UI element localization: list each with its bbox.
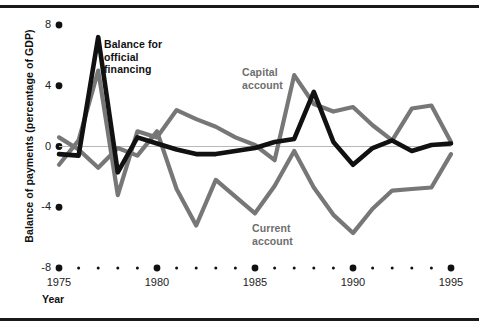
y-axis-dot (56, 82, 63, 89)
y-axis-tick-label: 8 (29, 18, 51, 30)
x-axis-dot-major (448, 265, 455, 272)
annotation-capital-account: Capital account (242, 66, 283, 91)
annotation-balance-official-financing: Balance for official financing (104, 38, 162, 76)
x-axis-tick-label: 1980 (137, 276, 177, 288)
x-axis-dot-minor (391, 267, 394, 270)
x-axis-dot-minor (77, 267, 80, 270)
x-axis-dot-minor (332, 267, 335, 270)
x-axis-dot-minor (214, 267, 217, 270)
annotation-line-2: account (242, 79, 283, 91)
x-axis-dot-minor (136, 267, 139, 270)
x-axis-dot-minor (175, 267, 178, 270)
y-axis-tick-label: 0 (29, 140, 51, 152)
x-axis-tick-label: 1990 (333, 276, 373, 288)
x-axis-dot-minor (273, 267, 276, 270)
y-axis-dot (56, 22, 63, 29)
x-axis-title: Year (42, 293, 64, 305)
annotation-current-account: Current account (252, 222, 293, 247)
annotation-line-3: financing (104, 63, 152, 75)
x-axis-dot-minor (97, 267, 100, 270)
x-axis-dot-minor (430, 267, 433, 270)
x-axis-tick-label: 1975 (39, 276, 79, 288)
y-axis-dot (56, 265, 63, 272)
annotation-line-2: account (252, 235, 293, 247)
y-axis-tick-label: 4 (29, 79, 51, 91)
x-axis-dot-major (350, 265, 357, 272)
annotation-line-1: Balance for (104, 38, 162, 50)
x-axis-dot-minor (312, 267, 315, 270)
x-axis-dot-major (154, 265, 161, 272)
x-axis-tick-label: 1985 (235, 276, 275, 288)
annotation-line-1: Current (252, 222, 291, 234)
x-axis-dot-minor (293, 267, 296, 270)
annotation-line-1: Capital (242, 66, 278, 78)
annotation-line-2: official (104, 51, 139, 63)
x-axis-dot-minor (371, 267, 374, 270)
x-axis-dot-minor (234, 267, 237, 270)
x-axis-dot-minor (195, 267, 198, 270)
y-axis-dot (56, 204, 63, 211)
x-axis-dot-minor (410, 267, 413, 270)
chart-figure: Balance of payments (percentage of GDP) … (0, 0, 479, 325)
x-axis-tick-label: 1995 (431, 276, 471, 288)
x-axis-dot-major (252, 265, 259, 272)
y-axis-tick-label: -4 (29, 200, 51, 212)
y-axis-tick-label: -8 (29, 261, 51, 273)
x-axis-dot-minor (116, 267, 119, 270)
